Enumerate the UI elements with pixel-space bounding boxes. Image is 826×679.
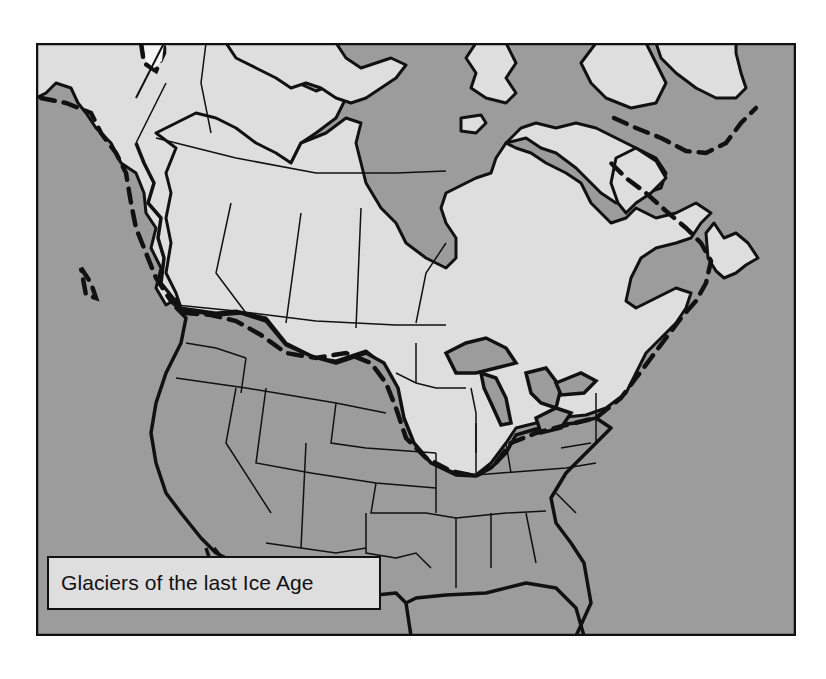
map-frame: Glaciers of the last Ice Age xyxy=(36,43,796,636)
map-title-label: Glaciers of the last Ice Age xyxy=(61,571,314,595)
map-legend-box: Glaciers of the last Ice Age xyxy=(47,556,381,610)
glacier-map xyxy=(36,43,796,636)
